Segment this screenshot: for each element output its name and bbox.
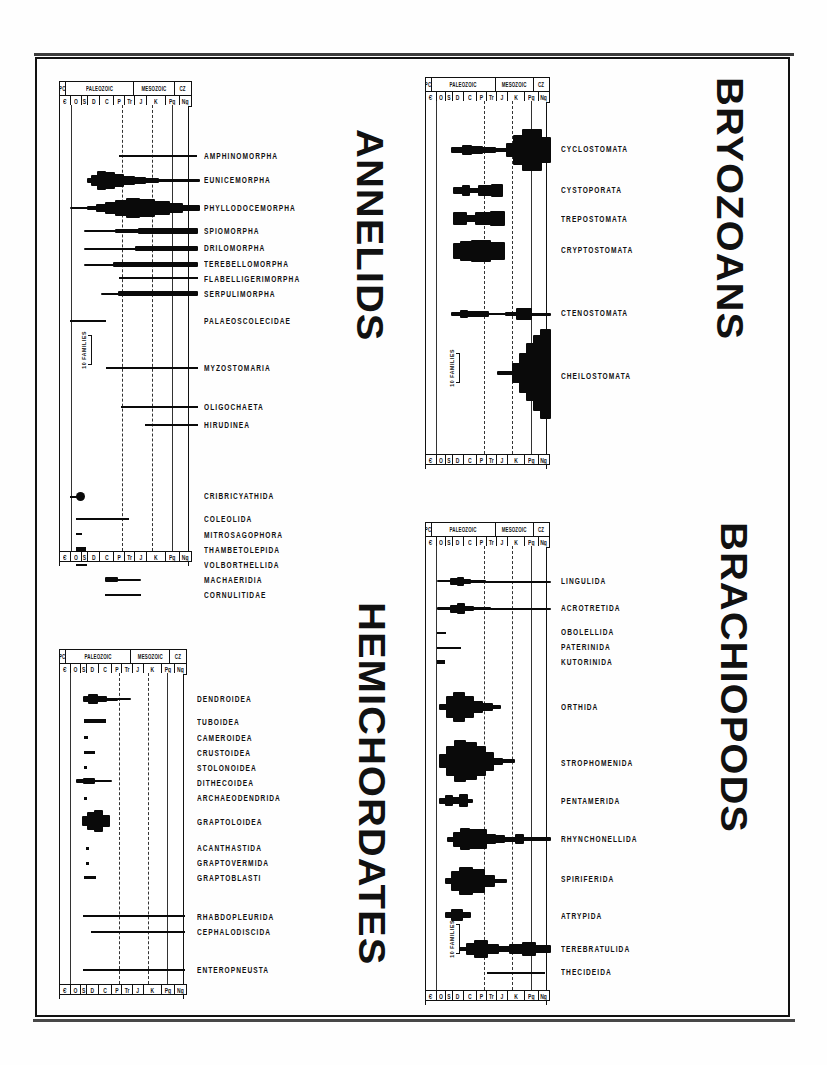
taxon-label-graptoblasti: GRAPTOBLASTI [197,873,262,882]
footer-period-cell-j: J [497,991,508,1000]
range-cornulitidae [105,594,141,596]
period-label: D [456,455,460,464]
taxon-label-crustoidea: CRUSTOIDEA [197,748,251,757]
scale-bar-bracket [456,353,460,383]
taxon-label-cyclostomata: CYCLOSTOMATA [561,144,628,153]
taxon-label-cribricyathida: CRIBRICYATHIDA [204,491,274,500]
range-spiriferida [445,867,507,895]
gridline-jurassic [148,673,149,984]
period-label: K [154,552,158,561]
range-flabelligerimorpha [119,277,198,279]
range-terebratulida [459,940,551,958]
taxon-label-palaeoscolecidae: PALAEOSCOLECIDAE [204,316,291,325]
range-cyclostomata [451,129,551,171]
era-cell-mesozoic: MESOZOIC [496,78,534,91]
range-tuboidea [84,719,106,723]
taxon-label-spiriferida: SPIRIFERIDA [561,874,614,883]
footer-period-cell-k: K [147,552,165,561]
range-spiomorpha [84,228,198,234]
footer-period-cell-є: Є [60,985,71,994]
era-label: PALEOZOIC [86,85,113,93]
era-cell-cz: CZ [170,650,185,663]
taxon-label-amphinomorpha: AMPHINOMORPHA [204,151,278,160]
period-label: O [439,455,443,464]
taxon-label-cystoporata: CYSTOPORATA [561,185,622,194]
period-label: C [103,985,107,994]
footer-period-cell-d: D [87,985,98,994]
era-label: PALEOZOIC [450,81,477,89]
period-label: Tr [127,552,132,561]
era-row: PCPALEOZOICMESOZOICCZ [60,82,191,95]
footer-period-cell-o: O [437,991,447,1000]
hemichordates-plot [60,673,183,984]
taxon-label-obolellida: OBOLELLIDA [561,627,614,636]
range-cephalodiscida [91,931,185,933]
bryozoans-timescale-footer: ЄOSDCPTrJKPgNg [425,454,550,465]
range-rhabdopleurida [83,915,185,917]
taxon-label-orthida: ORTHIDA [561,702,598,711]
taxon-label-thambetolepida: THAMBETOLEPIDA [204,545,280,554]
period-label: C [468,991,472,1000]
gridline-cambrian [436,101,437,454]
range-cribricyathida-tail [70,496,78,498]
panel-title-bryozoans: BRYOZOANS [709,77,750,340]
range-cryptostomata [453,240,505,262]
bryozoans-timescale-header: PCPALEOZOICMESOZOICCZ ЄOSDCPTrJKPgNg [425,77,550,103]
taxon-label-dendroidea: DENDROIDEA [197,694,252,703]
footer-period-cell-j: J [497,455,508,464]
footer-period-cell-o: O [71,985,81,994]
footer-period-cell-tr: Tr [122,985,132,994]
footer-period-cell-d: D [453,455,464,464]
taxon-label-machaeridia: MACHAERIDIA [204,575,262,584]
era-cell-mesozoic: MESOZOIC [496,523,534,536]
taxon-label-drilomorpha: DRILOMORPHA [204,243,265,252]
period-label: Tr [489,455,494,464]
taxon-label-volborthellida: VOLBORTHELLIDA [204,560,280,569]
range-enteropneusta [83,969,185,971]
footer-period-cell-ng: Ng [180,552,190,561]
period-label: Pg [528,455,534,464]
taxon-label-cornulitidae: CORNULITIDAE [204,590,266,599]
scale-bar-bracket [88,335,92,365]
taxon-label-stolonoidea: STOLONOIDEA [197,763,257,772]
brachiopods-timescale-footer: ЄOSDCPTrJKPgNg [425,990,550,1001]
era-cell-cz: CZ [534,78,549,91]
footer-period-cell-tr: Tr [487,455,497,464]
period-label: K [514,991,518,1000]
range-atrypida [445,909,471,921]
range-graptoloidea [82,810,110,832]
taxon-label-phyllodocemorpha: PHYLLODOCEMORPHA [204,203,296,212]
range-eunicemorpha [87,171,199,190]
period-label: C [468,455,472,464]
period-label: J [136,985,139,994]
period-label: D [456,991,460,1000]
range-machaeridia [105,577,141,582]
period-label: Є [63,552,67,561]
scale-bar-label: 10 FAMILIES [449,349,455,387]
period-label: Ng [177,985,184,994]
footer-period-cell-p: P [114,552,124,561]
period-label: J [500,455,503,464]
era-label: CZ [538,526,544,534]
taxon-label-archaeodendrida: ARCHAEODENDRIDA [197,793,281,802]
hemichordates-timescale-header: PCPALEOZOICMESOZOICCZ ЄOSDCPTrJKPgNg [59,649,187,675]
era-label: PC [426,526,432,534]
taxon-label-hirudinea: HIRUDINEA [204,420,250,429]
gridline-carboniferous [119,673,120,984]
figure-page: PCPALEOZOICMESOZOICCZ ЄOSDCPTrJKPgNg ЄOS… [0,0,827,1065]
era-row: PCPALEOZOICMESOZOICCZ [426,523,549,536]
gridline-paleogene [167,673,168,984]
footer-period-cell-k: K [508,455,525,464]
scale-bar-label: 10 FAMILIES [449,920,455,958]
taxon-label-ctenostomata: CTENOSTOMATA [561,308,628,317]
footer-period-cell-c: C [464,455,478,464]
period-label: Є [63,985,67,994]
range-palaeoscolecidae [70,320,106,322]
period-label: O [439,991,443,1000]
period-label: C [105,552,109,561]
era-label: CZ [175,653,181,661]
era-label: PC [426,81,432,89]
taxon-label-rhabdopleurida: RHABDOPLEURIDA [197,912,274,921]
range-volborthellida [76,564,87,566]
range-graptoblasti [84,876,96,879]
